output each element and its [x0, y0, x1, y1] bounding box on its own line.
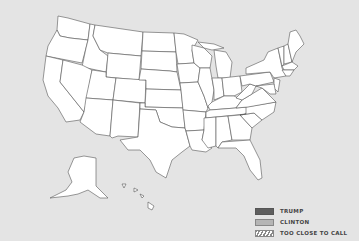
state-ar[interactable] — [183, 110, 206, 131]
state-nm[interactable] — [110, 100, 140, 138]
state-hi-big[interactable] — [148, 202, 154, 210]
state-ia[interactable] — [177, 63, 200, 83]
trump-swatch — [255, 208, 274, 215]
state-fl[interactable] — [218, 140, 262, 180]
legend: TRUMP CLINTON TOO CLOSE TO CALL — [255, 206, 347, 239]
legend-item-toss-up: TOO CLOSE TO CALL — [255, 228, 347, 238]
state-oh[interactable] — [222, 76, 242, 96]
legend-item-trump: TRUMP — [255, 206, 347, 216]
state-wy[interactable] — [106, 53, 141, 80]
toss-up-swatch — [255, 230, 274, 237]
state-pa[interactable] — [240, 72, 274, 86]
clinton-swatch — [255, 219, 274, 226]
state-az[interactable] — [80, 98, 113, 136]
state-ak[interactable] — [50, 156, 108, 198]
state-mi[interactable] — [214, 50, 232, 78]
state-hi-kauai[interactable] — [122, 184, 126, 188]
legend-label-clinton: CLINTON — [280, 219, 309, 225]
us-states-map — [0, 0, 359, 241]
state-sd[interactable] — [141, 51, 177, 72]
legend-label-trump: TRUMP — [280, 208, 303, 214]
legend-label-toss-up: TOO CLOSE TO CALL — [280, 230, 347, 236]
state-ks[interactable] — [145, 89, 183, 108]
state-hi-oahu[interactable] — [134, 188, 138, 192]
state-nd[interactable] — [142, 32, 176, 52]
state-co[interactable] — [113, 78, 146, 103]
legend-item-clinton: CLINTON — [255, 217, 347, 227]
state-hi-maui[interactable] — [140, 194, 144, 198]
